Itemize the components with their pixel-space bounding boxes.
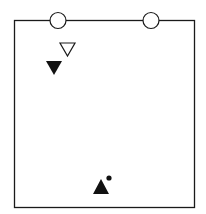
drill-diagram [0,0,206,214]
player-with-ball-triangle-icon [93,179,109,194]
ball-icon [106,175,111,180]
cone-left-icon [50,13,66,29]
field-boundary [15,21,195,208]
player-filled-down-triangle-icon [46,61,62,75]
defender-open-triangle-icon [60,43,75,56]
cone-right-icon [143,13,159,29]
